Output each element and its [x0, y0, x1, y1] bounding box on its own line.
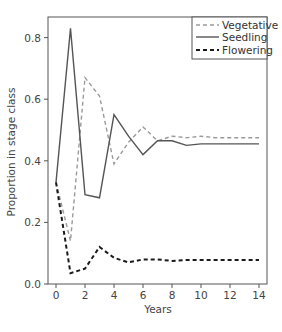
- y-tick-label: 0.8: [24, 32, 41, 44]
- legend-label-flowering: Flowering: [222, 44, 273, 56]
- series-vegetative: [56, 78, 259, 241]
- x-axis: 02468101214: [53, 284, 266, 301]
- series-layer: [56, 28, 259, 273]
- legend: Vegetative Seedling Flowering: [192, 17, 278, 59]
- line-chart: 02468101214 0.00.20.40.60.8 Years Propor…: [0, 0, 282, 332]
- x-tick-label: 12: [223, 289, 236, 301]
- x-tick-label: 8: [169, 289, 176, 301]
- x-tick-label: 2: [82, 289, 89, 301]
- legend-label-seedling: Seedling: [222, 31, 267, 43]
- y-tick-label: 0.4: [24, 155, 41, 167]
- y-tick-label: 0.2: [24, 216, 41, 228]
- x-tick-label: 6: [140, 289, 147, 301]
- y-axis: 0.00.20.40.60.8: [24, 32, 48, 290]
- x-tick-label: 4: [111, 289, 118, 301]
- y-axis-title: Proportion in stage class: [5, 88, 17, 217]
- x-tick-label: 10: [194, 289, 207, 301]
- x-tick-label: 14: [252, 289, 266, 301]
- x-tick-label: 0: [53, 289, 60, 301]
- y-tick-label: 0.6: [24, 93, 41, 105]
- x-axis-title: Years: [143, 303, 172, 315]
- y-tick-label: 0.0: [24, 278, 41, 290]
- legend-label-vegetative: Vegetative: [222, 19, 278, 31]
- series-flowering: [56, 182, 259, 273]
